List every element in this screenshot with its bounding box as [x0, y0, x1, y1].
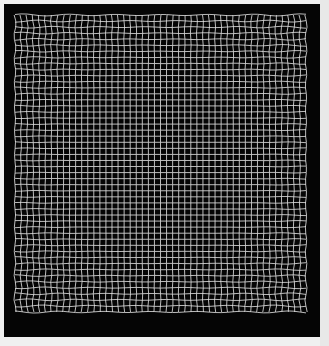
page-edge	[320, 0, 329, 346]
grid-line-horizontal	[15, 209, 306, 210]
grid-line-vertical	[160, 15, 161, 312]
grid-line-horizontal	[15, 311, 306, 313]
grid-line-vertical	[51, 15, 53, 312]
grid-line-vertical	[257, 15, 259, 312]
grid-line-horizontal	[15, 160, 306, 161]
grid-line-horizontal	[15, 154, 306, 155]
grid-line-vertical	[299, 15, 301, 312]
grid-line-vertical	[69, 15, 71, 312]
grid-line-vertical	[275, 15, 277, 312]
grid-line-horizontal	[15, 215, 306, 216]
grid-line-horizontal	[15, 245, 306, 246]
grid-line-vertical	[154, 15, 155, 312]
grid-line-horizontal	[15, 111, 306, 112]
grid-line-vertical	[26, 15, 28, 312]
grid-line-vertical	[208, 15, 209, 312]
grid-line-vertical	[93, 15, 94, 312]
grid-line-horizontal	[15, 197, 306, 198]
grid-line-horizontal	[15, 99, 306, 100]
grid-line-horizontal	[15, 202, 306, 203]
grid-line-vertical	[142, 15, 143, 312]
grid-line-vertical	[81, 15, 82, 312]
grid-line-vertical	[305, 15, 307, 312]
grid-line-vertical	[172, 15, 173, 312]
illusion-image	[0, 0, 329, 346]
grid-line-horizontal	[15, 136, 306, 137]
grid-line-horizontal	[15, 178, 306, 179]
grid-line-vertical	[148, 15, 149, 312]
grid-line-vertical	[190, 15, 191, 312]
grid-line-horizontal	[15, 239, 306, 240]
grid-line-vertical	[124, 15, 125, 312]
grid-line-vertical	[75, 15, 76, 312]
grid-line-horizontal	[15, 172, 306, 173]
grid-line-vertical	[251, 15, 252, 312]
grid-line-horizontal	[15, 118, 306, 119]
grid-line-vertical	[38, 15, 40, 312]
grid-line-horizontal	[15, 142, 306, 143]
grid-line-vertical	[20, 15, 22, 312]
grid-line-vertical	[281, 15, 283, 312]
grid-line-horizontal	[15, 148, 306, 149]
grid-line-vertical	[57, 15, 58, 312]
grid-line-vertical	[32, 15, 34, 312]
grid-line-vertical	[99, 15, 100, 312]
grid-line-horizontal	[15, 166, 306, 167]
grid-line-vertical	[227, 15, 228, 312]
grid-line-vertical	[287, 15, 289, 312]
grid-line-vertical	[178, 15, 179, 312]
grid-line-vertical	[203, 15, 204, 312]
grid-line-vertical	[184, 15, 185, 312]
grid-line-vertical	[117, 15, 118, 312]
grid-line-vertical	[263, 15, 265, 312]
grid-line-vertical	[245, 15, 246, 312]
grid-line-vertical	[269, 15, 271, 312]
grid-line-vertical	[221, 15, 222, 312]
white-line-grid	[0, 0, 329, 346]
grid-line-vertical	[136, 15, 137, 312]
grid-line-horizontal	[15, 124, 306, 125]
grid-line-vertical	[214, 15, 215, 312]
grid-line-vertical	[293, 15, 295, 312]
grid-line-horizontal	[15, 69, 306, 70]
grid-line-vertical	[106, 15, 107, 312]
grid-line-vertical	[111, 15, 112, 312]
grid-line-horizontal	[15, 227, 306, 228]
grid-line-horizontal	[15, 130, 306, 131]
grid-line-vertical	[14, 15, 16, 312]
grid-line-horizontal	[15, 190, 306, 191]
grid-line-vertical	[233, 15, 234, 312]
grid-line-vertical	[44, 15, 46, 312]
grid-line-vertical	[196, 15, 197, 312]
grid-line-horizontal	[15, 184, 306, 185]
grid-line-vertical	[63, 15, 64, 312]
grid-line-vertical	[130, 15, 131, 312]
grid-line-vertical	[87, 15, 88, 312]
grid-line-horizontal	[15, 221, 306, 222]
grid-line-vertical	[166, 15, 167, 312]
grid-line-vertical	[239, 15, 240, 312]
